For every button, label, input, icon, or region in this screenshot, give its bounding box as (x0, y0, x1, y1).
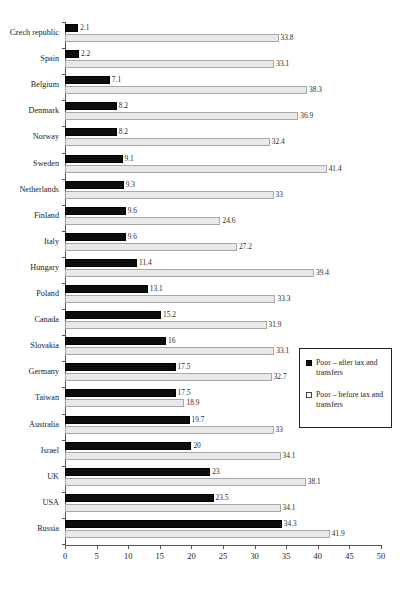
bar-after-tax: 8.2 (65, 128, 117, 136)
legend-item-after-tax: Poor – after tax and transfers (306, 358, 385, 377)
bar-value-after-tax: 9.1 (125, 155, 134, 163)
plot-area: Czech republic2.133.8Spain2.233.1Belgium… (65, 22, 381, 544)
chart-row: USA23.534.1 (65, 492, 381, 518)
category-label: Norway (33, 132, 59, 142)
bar-after-tax: 9.3 (65, 181, 124, 189)
y-axis-tick (62, 414, 66, 415)
bar-value-after-tax: 17.5 (178, 363, 191, 371)
legend-label-before-tax: Poor – before tax and transfers (316, 390, 385, 409)
y-axis-tick (62, 100, 66, 101)
category-label: Poland (36, 289, 59, 299)
bar-before-tax: 24.6 (65, 217, 220, 225)
y-axis-tick (62, 153, 66, 154)
bar-before-tax: 33.1 (65, 60, 274, 68)
category-label: Slovakia (30, 341, 59, 351)
bar-value-before-tax: 33.3 (277, 295, 290, 303)
bar-value-after-tax: 9.6 (128, 207, 137, 215)
bar-value-before-tax: 41.9 (332, 530, 345, 538)
x-axis-tick (223, 545, 224, 549)
x-axis-tick-label: 40 (314, 552, 322, 562)
bar-value-after-tax: 16 (168, 337, 175, 345)
legend-swatch-filled-icon (306, 360, 312, 366)
bar-value-after-tax: 9.3 (126, 181, 135, 189)
bar-value-before-tax: 38.1 (308, 478, 321, 486)
bar-before-tax: 39.4 (65, 269, 314, 277)
y-axis-tick (62, 387, 66, 388)
chart-row: UK2338.1 (65, 466, 381, 492)
x-axis-tick-label: 50 (377, 552, 385, 562)
bar-before-tax: 18.9 (65, 399, 184, 407)
bar-value-after-tax: 8.2 (119, 128, 128, 136)
category-label: Netherlands (19, 185, 59, 195)
bar-after-tax: 16 (65, 337, 166, 345)
legend-swatch-hollow-icon (306, 392, 312, 398)
bar-value-before-tax: 32.7 (274, 373, 287, 381)
chart-row: Poland13.133.3 (65, 283, 381, 309)
bar-value-before-tax: 32.4 (272, 138, 285, 146)
bar-after-tax: 17.5 (65, 389, 176, 397)
x-axis-tick-label: 30 (250, 552, 258, 562)
x-axis-tick (286, 545, 287, 549)
bar-value-before-tax: 41.4 (329, 165, 342, 173)
bar-value-before-tax: 18.9 (186, 399, 199, 407)
bar-value-before-tax: 38.3 (309, 86, 322, 94)
y-axis-tick (62, 205, 66, 206)
x-axis-tick-label: 35 (282, 552, 290, 562)
category-label: Belgium (31, 80, 59, 90)
bar-value-before-tax: 34.1 (283, 452, 296, 460)
x-axis-tick-label: 0 (63, 552, 67, 562)
x-axis-tick-label: 5 (95, 552, 99, 562)
bar-after-tax: 23.5 (65, 494, 214, 502)
bar-value-after-tax: 11.4 (139, 259, 152, 267)
bar-value-after-tax: 7.1 (112, 76, 121, 84)
y-axis-tick (62, 283, 66, 284)
bar-value-before-tax: 34.1 (283, 504, 296, 512)
category-label: Spain (40, 54, 59, 64)
bar-after-tax: 8.2 (65, 102, 117, 110)
y-axis-tick (62, 179, 66, 180)
x-axis-tick (191, 545, 192, 549)
x-axis-tick (97, 545, 98, 549)
category-label: Italy (44, 237, 59, 247)
bar-value-before-tax: 33.1 (276, 60, 289, 68)
bar-after-tax: 2.1 (65, 24, 78, 32)
bar-value-after-tax: 23.5 (216, 494, 229, 502)
bar-before-tax: 38.3 (65, 86, 307, 94)
bar-value-after-tax: 9.6 (128, 233, 137, 241)
y-axis-tick (62, 231, 66, 232)
y-axis-tick (62, 440, 66, 441)
y-axis-tick (62, 48, 66, 49)
bar-after-tax: 19.7 (65, 416, 190, 424)
bar-before-tax: 31.9 (65, 321, 267, 329)
bar-value-before-tax: 33 (276, 191, 283, 199)
bar-after-tax: 23 (65, 468, 210, 476)
bar-value-before-tax: 33.1 (276, 347, 289, 355)
category-label: Sweden (33, 159, 59, 169)
bar-value-before-tax: 24.6 (222, 217, 235, 225)
bar-before-tax: 34.1 (65, 452, 281, 460)
bar-value-before-tax: 31.9 (269, 321, 282, 329)
bar-before-tax: 32.4 (65, 138, 270, 146)
bar-before-tax: 33.3 (65, 295, 275, 303)
bar-after-tax: 17.5 (65, 363, 176, 371)
category-label: Russia (37, 524, 59, 534)
category-label: Denmark (29, 106, 59, 116)
bar-before-tax: 41.9 (65, 530, 330, 538)
x-axis-tick (318, 545, 319, 549)
chart-row: Norway8.232.4 (65, 126, 381, 152)
bar-before-tax: 33 (65, 191, 274, 199)
category-label: Taiwan (35, 393, 59, 403)
chart-legend: Poor – after tax and transfers Poor – be… (299, 348, 392, 428)
bar-after-tax: 34.3 (65, 520, 282, 528)
bar-value-after-tax: 17.5 (178, 389, 191, 397)
y-axis-tick (62, 126, 66, 127)
bar-before-tax: 27.2 (65, 243, 237, 251)
bar-before-tax: 32.7 (65, 373, 272, 381)
chart-row: Hungary11.439.4 (65, 257, 381, 283)
category-label: Hungary (30, 263, 59, 273)
chart-row: Italy9.627.2 (65, 231, 381, 257)
y-axis-tick (62, 257, 66, 258)
category-label: Germany (29, 367, 59, 377)
x-axis-tick-label: 20 (187, 552, 195, 562)
bar-value-before-tax: 39.4 (316, 269, 329, 277)
